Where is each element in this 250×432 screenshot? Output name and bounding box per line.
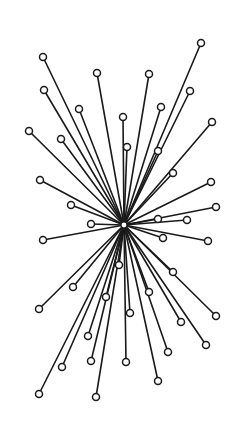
leaf-node-19 [213, 204, 220, 211]
leaf-node-24 [40, 237, 47, 244]
leaf-node-11 [26, 128, 33, 135]
leaf-node-2 [40, 54, 47, 61]
leaf-node-18 [68, 202, 75, 209]
leaf-node-20 [155, 216, 162, 223]
leaf-node-13 [124, 144, 131, 151]
leaf-node-22 [88, 221, 95, 228]
edge-7 [124, 107, 161, 225]
leaf-node-12 [58, 136, 65, 143]
edge-1 [124, 43, 201, 225]
leaf-node-39 [123, 359, 130, 366]
leaf-node-32 [127, 310, 134, 317]
leaf-node-33 [213, 313, 220, 320]
leaf-node-34 [178, 319, 185, 326]
edge-22 [91, 224, 124, 225]
edge-12 [61, 139, 124, 225]
leaf-node-17 [208, 179, 215, 186]
leaf-node-23 [160, 235, 167, 242]
star-graph-diagram [0, 0, 250, 432]
leaf-node-5 [41, 87, 48, 94]
leaf-node-25 [205, 238, 212, 245]
leaf-node-29 [146, 289, 153, 296]
edge-8 [79, 109, 124, 225]
leaf-node-9 [120, 114, 127, 121]
edge-2 [43, 57, 124, 225]
leaf-node-30 [103, 294, 110, 301]
leaf-node-42 [36, 391, 43, 398]
leaf-node-3 [94, 70, 101, 77]
hub-node [121, 222, 127, 228]
edge-17 [124, 182, 211, 225]
leaf-node-41 [155, 378, 162, 385]
leaf-node-10 [209, 119, 216, 126]
edge-14 [124, 151, 158, 225]
leaf-node-21 [184, 217, 191, 224]
edge-42 [39, 225, 124, 394]
leaf-node-43 [93, 394, 100, 401]
leaf-node-28 [70, 284, 77, 291]
leaf-node-35 [85, 333, 92, 340]
edge-43 [96, 225, 124, 397]
leaf-node-37 [165, 349, 172, 356]
leaf-node-6 [187, 88, 194, 95]
leaf-node-15 [170, 170, 177, 177]
edge-40 [62, 225, 124, 367]
leaf-node-36 [203, 342, 210, 349]
leaf-node-1 [198, 40, 205, 47]
leaf-node-38 [88, 358, 95, 365]
leaf-node-40 [59, 364, 66, 371]
leaf-node-7 [158, 104, 165, 111]
leaf-node-8 [76, 106, 83, 113]
leaf-node-26 [116, 262, 123, 269]
leaf-node-31 [36, 306, 43, 313]
leaf-node-14 [155, 148, 162, 155]
leaf-node-27 [170, 269, 177, 276]
edge-35 [88, 225, 124, 336]
leaf-node-16 [37, 177, 44, 184]
leaf-node-4 [146, 71, 153, 78]
